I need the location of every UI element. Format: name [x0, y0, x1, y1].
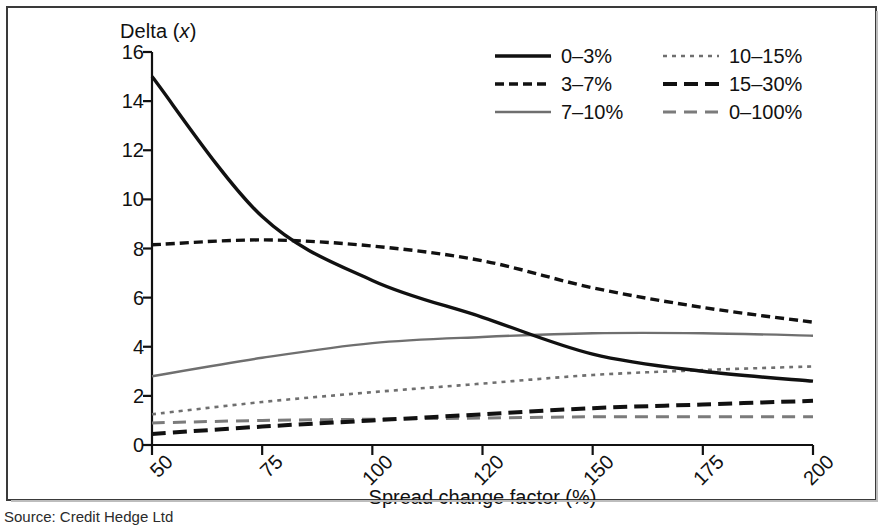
x-tick-label: 75: [256, 451, 286, 481]
x-tick-label: 120: [469, 451, 507, 489]
legend-entry[interactable]: 10–15%: [663, 42, 831, 70]
legend-entry[interactable]: 0–3%: [495, 42, 663, 70]
legend-label: 15–30%: [729, 74, 802, 94]
y-tick-label: 10: [108, 189, 144, 209]
source-caption: Source: Credit Hedge Ltd: [4, 508, 173, 525]
legend-line-swatch: [663, 105, 719, 119]
y-tick-label: 2: [108, 386, 144, 406]
legend-label: 3–7%: [561, 74, 612, 94]
x-tick-label: 100: [359, 451, 397, 489]
series-line: [152, 333, 813, 376]
figure-frame: Delta (x) 0246810121416 5075100120150175…: [6, 6, 877, 501]
legend-label: 10–15%: [729, 46, 802, 66]
legend-line-swatch: [495, 77, 551, 91]
x-axis-title: Spread change factor (%): [152, 486, 813, 509]
legend-label: 0–3%: [561, 46, 612, 66]
y-axis-title: Delta (x): [120, 20, 196, 43]
legend-entry[interactable]: 7–10%: [495, 98, 663, 126]
y-axis-title-text: Delta (: [120, 20, 180, 42]
chart-legend: 0–3%10–15%3–7%15–30%7–10%0–100%: [495, 42, 831, 126]
series-line: [152, 401, 813, 434]
y-axis-title-variable: x: [180, 20, 190, 42]
x-tick-label: 150: [579, 451, 617, 489]
x-tick-label: 175: [689, 451, 727, 489]
legend-entry[interactable]: 3–7%: [495, 70, 663, 98]
x-tick-label: 200: [799, 451, 837, 489]
series-line: [152, 240, 813, 322]
y-tick-label: 6: [108, 288, 144, 308]
y-tick-label: 4: [108, 337, 144, 357]
series-line: [152, 417, 813, 423]
y-tick-label: 14: [108, 91, 144, 111]
legend-line-swatch: [663, 77, 719, 91]
y-tick-label: 8: [108, 239, 144, 259]
legend-line-swatch: [495, 49, 551, 63]
x-tick-label: 50: [146, 451, 176, 481]
legend-line-swatch: [663, 49, 719, 63]
y-axis-title-paren: ): [190, 20, 197, 42]
legend-label: 7–10%: [561, 102, 623, 122]
y-tick-label: 12: [108, 140, 144, 160]
legend-entry[interactable]: 15–30%: [663, 70, 831, 98]
legend-line-swatch: [495, 105, 551, 119]
legend-entry[interactable]: 0–100%: [663, 98, 831, 126]
legend-label: 0–100%: [729, 102, 802, 122]
y-axis-tick-labels: 0246810121416: [104, 52, 144, 445]
y-tick-label: 16: [108, 42, 144, 62]
y-tick-label: 0: [108, 435, 144, 455]
